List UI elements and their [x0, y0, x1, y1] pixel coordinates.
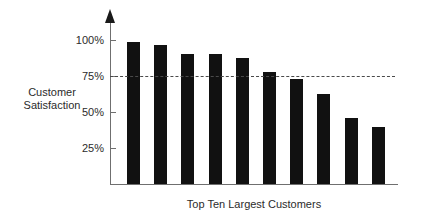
bar-6 — [263, 72, 276, 185]
chart-figure: Customer Satisfaction 100% 75% 50% 25% T… — [0, 0, 421, 223]
x-axis-line — [110, 184, 398, 185]
y-tick-label-50: 50% — [60, 107, 104, 118]
y-tick-label-100: 100% — [60, 35, 104, 46]
x-axis-label: Top Ten Largest Customers — [110, 198, 398, 211]
threshold-reference-line — [110, 76, 395, 77]
y-tick-label-25: 25% — [60, 143, 104, 154]
plot-area — [110, 22, 400, 184]
y-tick-label-75: 75% — [60, 71, 104, 82]
y-axis-arrow-icon — [105, 9, 115, 23]
bar-7 — [290, 79, 303, 184]
bar-9 — [345, 118, 358, 184]
bar-2 — [154, 45, 167, 185]
bar-1 — [127, 42, 140, 185]
bar-4 — [209, 54, 222, 185]
bar-8 — [317, 94, 330, 184]
bar-10 — [372, 127, 385, 184]
bar-3 — [181, 54, 194, 185]
